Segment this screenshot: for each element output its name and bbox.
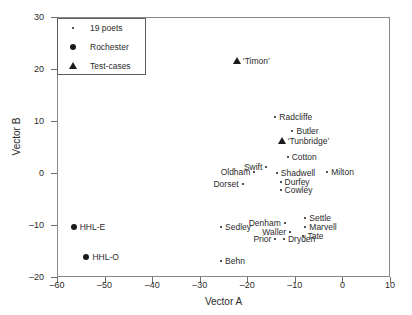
filled-triangle-icon bbox=[69, 62, 77, 69]
x-axis-tick-label: –10 bbox=[275, 281, 315, 290]
legend-label: 19 poets bbox=[90, 24, 123, 33]
data-point-label: HHL-E bbox=[80, 223, 106, 232]
data-point-label: Behn bbox=[225, 257, 245, 266]
y-axis-tick-label: 10 bbox=[0, 117, 44, 126]
data-point bbox=[276, 172, 278, 174]
legend-label: Rochester bbox=[90, 43, 129, 52]
data-point-label: Milton bbox=[331, 167, 354, 176]
data-point bbox=[278, 137, 286, 144]
x-axis-tick-label: –20 bbox=[227, 281, 267, 290]
data-point-label: Oldham bbox=[221, 167, 251, 176]
legend-label: Test-cases bbox=[90, 62, 131, 71]
data-point bbox=[280, 181, 282, 183]
data-point-label: Cowley bbox=[285, 186, 313, 195]
data-point bbox=[71, 224, 77, 230]
legend-item-test-cases: Test-cases bbox=[58, 57, 147, 76]
legend-item-19-poets: 19 poets bbox=[58, 19, 147, 38]
x-axis-tick-label: –30 bbox=[180, 281, 220, 290]
y-axis-tick-label: –10 bbox=[0, 221, 44, 230]
x-axis-tick-label: –60 bbox=[37, 281, 77, 290]
y-axis-tick-label: 20 bbox=[0, 65, 44, 74]
filled-circle-icon bbox=[70, 44, 76, 50]
scatter-chart: –20–100102030–60–50–40–30–20–10010 Radcl… bbox=[0, 0, 412, 315]
data-point bbox=[284, 222, 286, 224]
x-axis-tick-label: 0 bbox=[322, 281, 362, 290]
chart-legend: 19 poets Rochester Test-cases bbox=[57, 18, 146, 75]
y-axis-title: Vector B bbox=[11, 97, 22, 177]
data-point-label: Cotton bbox=[292, 152, 317, 161]
y-axis-tick bbox=[51, 121, 57, 122]
data-point-label: ‘Timon’ bbox=[243, 57, 270, 66]
y-axis-tick-label: 0 bbox=[0, 169, 44, 178]
y-axis-tick bbox=[51, 173, 57, 174]
x-axis-tick-label: –50 bbox=[85, 281, 125, 290]
data-point-label: Dryden bbox=[288, 235, 315, 244]
y-axis-tick bbox=[51, 225, 57, 226]
data-point-label: Prior bbox=[253, 235, 271, 244]
x-axis-tick-label: 10 bbox=[370, 281, 410, 290]
data-point-label: Radcliffe bbox=[279, 112, 312, 121]
x-axis-tick-label: –40 bbox=[132, 281, 172, 290]
small-dot-icon bbox=[72, 27, 74, 29]
data-point bbox=[283, 238, 285, 240]
data-point-label: Dorset bbox=[213, 179, 238, 188]
data-point-label: ‘Tunbridge’ bbox=[288, 136, 330, 145]
legend-item-rochester: Rochester bbox=[58, 38, 147, 57]
data-point-label: HHL-O bbox=[92, 253, 118, 262]
data-point bbox=[233, 57, 241, 64]
x-axis-title: Vector A bbox=[57, 296, 390, 307]
data-point bbox=[242, 183, 244, 185]
data-point bbox=[287, 156, 289, 158]
y-axis-tick-label: 30 bbox=[0, 13, 44, 22]
data-point bbox=[280, 189, 282, 191]
data-point-label: Sedley bbox=[225, 223, 251, 232]
